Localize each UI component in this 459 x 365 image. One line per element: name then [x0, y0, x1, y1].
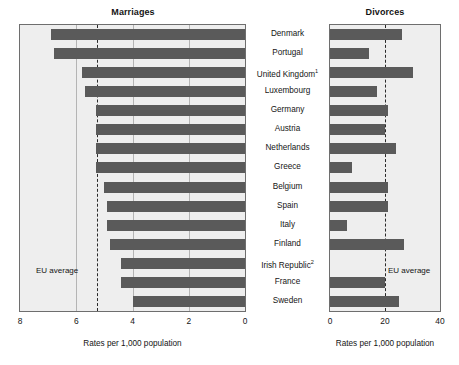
marriages-bar-row [20, 63, 245, 82]
footnote-marker: 2 [311, 259, 314, 265]
bar-marriages-austria [96, 124, 245, 135]
bar-divorces-greece [330, 162, 352, 173]
bar-divorces-spain [330, 201, 388, 212]
marriages-bar-row [20, 216, 245, 235]
marriages-axis-caption: Rates per 1,000 population [19, 339, 246, 348]
category-labels: DenmarkPortugalUnited Kingdom1Luxembourg… [246, 24, 329, 312]
category-label-finland: Finland [246, 234, 329, 253]
bar-marriages-luxembourg [85, 86, 245, 97]
bar-divorces-netherlands [330, 143, 396, 154]
category-label-sweden: Sweden [246, 291, 329, 310]
divorces-tick-0: 0 [318, 316, 342, 326]
category-label-spain: Spain [246, 196, 329, 215]
marriages-bar-row [20, 101, 245, 120]
bar-marriages-sweden [133, 296, 246, 307]
marriages-bar-row [20, 139, 245, 158]
bar-marriages-greece [96, 162, 245, 173]
bar-divorces-united-kingdom [330, 67, 413, 78]
category-label-belgium: Belgium [246, 177, 329, 196]
divorces-tick-40: 40 [428, 316, 452, 326]
marriages-bar-row [20, 158, 245, 177]
divorces-bar-row [330, 120, 440, 139]
bar-divorces-luxembourg [330, 86, 377, 97]
divorces-bar-row [330, 25, 440, 44]
marriages-tick-0: 0 [233, 316, 257, 326]
bar-marriages-denmark [51, 29, 245, 40]
divorces-bar-row [330, 197, 440, 216]
bar-divorces-finland [330, 239, 404, 250]
marriages-bar-row [20, 273, 245, 292]
divorces-bar-row [330, 63, 440, 82]
bar-marriages-spain [107, 201, 245, 212]
bar-marriages-portugal [54, 48, 245, 59]
category-label-italy: Italy [246, 215, 329, 234]
marriages-tick-4: 4 [121, 316, 145, 326]
category-label-austria: Austria [246, 119, 329, 138]
marriages-bar-row [20, 235, 245, 254]
divorces-bar-row [330, 235, 440, 254]
bar-divorces-italy [330, 220, 347, 231]
category-label-denmark: Denmark [246, 24, 329, 43]
category-label-luxembourg: Luxembourg [246, 81, 329, 100]
marriages-tick-8: 8 [8, 316, 32, 326]
category-label-portugal: Portugal [246, 43, 329, 62]
marriages-bar-row [20, 44, 245, 63]
divorces-bar-row [330, 101, 440, 120]
category-label-greece: Greece [246, 157, 329, 176]
chart-figure: Marriages Divorces DenmarkPortugalUnited… [0, 0, 459, 365]
divorces-bar-row [330, 178, 440, 197]
bar-divorces-austria [330, 124, 385, 135]
bar-divorces-france [330, 277, 385, 288]
marriages-bar-row [20, 120, 245, 139]
divorces-bar-row [330, 292, 440, 311]
bar-divorces-sweden [330, 296, 399, 307]
bar-marriages-irish-republic [121, 258, 245, 269]
divorces-tick-20: 20 [373, 316, 397, 326]
category-label-france: France [246, 272, 329, 291]
category-label-netherlands: Netherlands [246, 138, 329, 157]
bar-marriages-france [121, 277, 245, 288]
bar-marriages-germany [96, 105, 245, 116]
bar-marriages-united-kingdom [82, 67, 245, 78]
category-label-germany: Germany [246, 100, 329, 119]
divorces-panel-title: Divorces [329, 7, 441, 17]
divorces-bar-row [330, 158, 440, 177]
marriages-bar-row [20, 178, 245, 197]
marriages-bar-row [20, 25, 245, 44]
divorces-axis-caption: Rates per 1,000 population [329, 339, 441, 348]
marriages-tick-6: 6 [64, 316, 88, 326]
marriages-bar-row [20, 197, 245, 216]
category-label-irish-republic: Irish Republic2 [246, 253, 329, 272]
bar-marriages-finland [110, 239, 245, 250]
bar-marriages-belgium [104, 182, 245, 193]
bar-divorces-germany [330, 105, 388, 116]
marriages-eu-average-label: EU average [36, 266, 78, 275]
marriages-panel-title: Marriages [20, 7, 246, 17]
category-label-united-kingdom: United Kingdom1 [246, 62, 329, 81]
marriages-tick-2: 2 [177, 316, 201, 326]
bar-marriages-italy [107, 220, 245, 231]
divorces-bar-row [330, 273, 440, 292]
divorces-bar-row [330, 139, 440, 158]
divorces-bar-row [330, 82, 440, 101]
bar-divorces-portugal [330, 48, 369, 59]
bar-marriages-netherlands [96, 143, 245, 154]
divorces-bar-row [330, 44, 440, 63]
marriages-bar-row [20, 292, 245, 311]
marriages-bar-row [20, 82, 245, 101]
divorces-eu-average-label: EU average [388, 266, 430, 275]
bar-divorces-belgium [330, 182, 388, 193]
footnote-marker: 1 [315, 68, 318, 74]
bar-divorces-denmark [330, 29, 402, 40]
divorces-bar-row [330, 216, 440, 235]
